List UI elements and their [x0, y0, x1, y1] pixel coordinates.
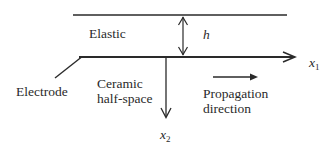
- propagation-arrowhead-icon: [250, 74, 258, 81]
- x2-axis-label-sub: 2: [166, 134, 171, 144]
- propagation-direction-label: Propagation direction: [203, 86, 268, 116]
- x2-axis-label: x2: [160, 127, 171, 147]
- propagation-label-line2: direction: [203, 101, 268, 116]
- x1-axis-label: x1: [309, 55, 320, 75]
- elastic-label: Elastic: [89, 26, 126, 41]
- electrode-label: Electrode: [16, 84, 68, 99]
- ceramic-half-space-label: Ceramic half-space: [97, 76, 152, 106]
- thickness-h-label: h: [203, 27, 210, 42]
- x1-axis-label-sub: 1: [315, 62, 320, 72]
- ceramic-label-line1: Ceramic: [97, 76, 152, 91]
- propagation-label-line1: Propagation: [203, 86, 268, 101]
- ceramic-label-line2: half-space: [97, 91, 152, 106]
- electrode-leader-line: [55, 58, 81, 79]
